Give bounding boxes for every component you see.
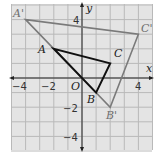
y-tick-4: 4 — [73, 15, 79, 26]
vertex-label-C-prime: C' — [141, 22, 152, 35]
x-tick-4: 4 — [135, 81, 141, 92]
coordinate-plane: x y O −4 −2 4 4 −2 −4 A B C A' B' C' — [0, 0, 162, 160]
y-tick-neg2: −2 — [63, 103, 78, 114]
vertex-label-C: C — [114, 47, 123, 60]
y-tick-neg4: −4 — [63, 132, 78, 143]
vertex-label-B: B — [86, 93, 95, 106]
vertex-label-B-prime: B' — [105, 109, 117, 122]
y-axis-label: y — [85, 2, 93, 15]
x-tick-neg2: −2 — [41, 81, 56, 92]
origin-label: O — [71, 80, 80, 93]
vertex-label-A-prime: A' — [12, 7, 24, 20]
x-axis-label: x — [146, 62, 153, 75]
x-tick-neg4: −4 — [12, 81, 27, 92]
vertex-label-A: A — [37, 43, 46, 56]
